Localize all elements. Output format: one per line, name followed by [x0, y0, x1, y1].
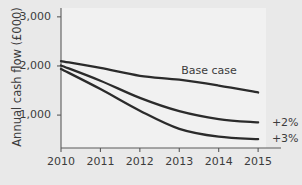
x-tick-label: 2010 — [41, 155, 81, 168]
x-tick-label: 2014 — [199, 155, 239, 168]
series-annotation: Base case — [181, 64, 237, 77]
x-tick-label: 2015 — [238, 155, 278, 168]
series-annotation: +3% — [272, 132, 299, 145]
chart-figure: Annual cash flow (£000) 1,0002,0003,000 … — [0, 0, 302, 185]
series-annotation: +2% — [272, 116, 299, 129]
y-tick-label: 1,000 — [9, 108, 51, 121]
y-axis-label: Annual cash flow (£000) — [10, 7, 24, 147]
y-tick-label: 2,000 — [9, 59, 51, 72]
x-tick-label: 2013 — [159, 155, 199, 168]
y-tick-label: 3,000 — [9, 10, 51, 23]
x-tick-label: 2011 — [80, 155, 120, 168]
x-tick-marks — [61, 148, 258, 152]
x-tick-label: 2012 — [120, 155, 160, 168]
